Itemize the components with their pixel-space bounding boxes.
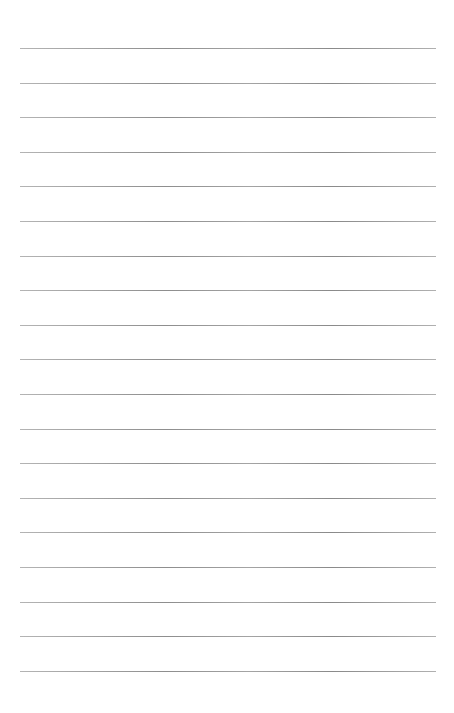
ruled-line [20,463,436,464]
ruled-line [20,152,436,153]
ruled-line [20,429,436,430]
ruled-line [20,671,436,672]
ruled-line [20,48,436,49]
ruled-line [20,636,436,637]
ruled-line [20,567,436,568]
ruled-line [20,602,436,603]
ruled-line [20,359,436,360]
ruled-paper-page [0,0,454,713]
ruled-line [20,83,436,84]
ruled-line [20,325,436,326]
ruled-line [20,256,436,257]
ruled-line [20,498,436,499]
ruled-line [20,117,436,118]
ruled-line [20,290,436,291]
ruled-line [20,394,436,395]
ruled-line [20,532,436,533]
ruled-line [20,221,436,222]
ruled-line [20,186,436,187]
